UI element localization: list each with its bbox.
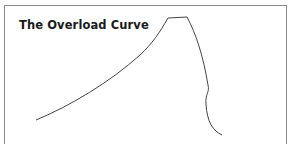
overload-curve [0, 0, 295, 144]
curve-line [36, 17, 222, 135]
